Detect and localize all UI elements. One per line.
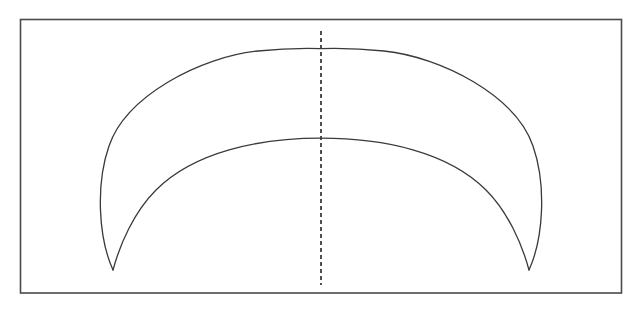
crescent-diagram bbox=[0, 0, 641, 311]
figure-canvas bbox=[0, 0, 641, 311]
